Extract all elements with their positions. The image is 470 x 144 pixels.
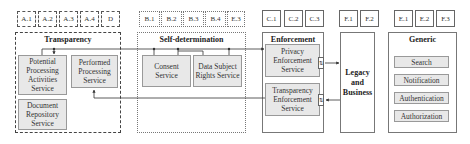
connector-lines xyxy=(0,0,470,144)
